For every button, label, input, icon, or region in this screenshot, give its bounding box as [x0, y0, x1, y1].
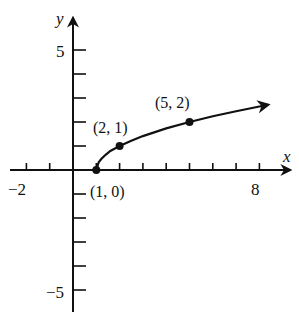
x-tick-label-8: 8 [251, 180, 260, 199]
point-1-0 [92, 166, 100, 174]
y-tick-label-5: 5 [56, 42, 65, 61]
y-axis-label: y [54, 9, 64, 28]
x-tick-label-neg2: −2 [8, 180, 26, 199]
y-tick-label-neg5: −5 [46, 283, 64, 302]
point-label-2-1: (2, 1) [93, 119, 128, 137]
function-curve [96, 105, 268, 170]
x-ticks [26, 163, 259, 170]
function-graph: y x −2 8 5 −5 (1, 0) (2, 1) (5, 2) [0, 0, 299, 320]
x-axis-label: x [282, 147, 291, 166]
point-label-1-0: (1, 0) [90, 183, 125, 201]
point-2-1 [116, 142, 124, 150]
point-5-2 [186, 118, 194, 126]
point-label-5-2: (5, 2) [155, 94, 190, 112]
